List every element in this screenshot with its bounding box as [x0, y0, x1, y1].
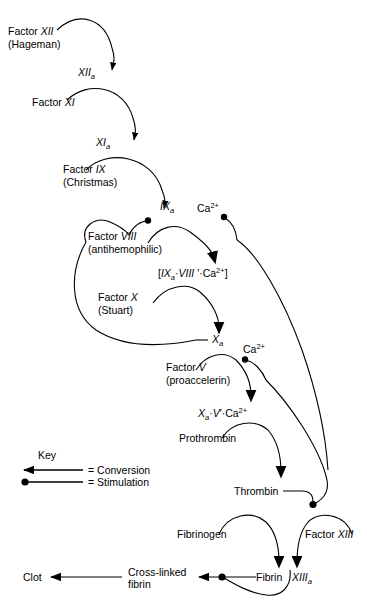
node-prothrombin: Prothrombin	[179, 432, 236, 444]
xiia-base: XII	[77, 66, 91, 78]
node-factor-xi: Factor XI	[32, 96, 75, 108]
node-crosslinked-fibrin-line2: fibrin	[128, 578, 151, 590]
complex2-ca-base: Ca	[225, 407, 239, 419]
factor-xi-numeral: XI	[64, 96, 75, 108]
xia-sub: a	[106, 142, 110, 151]
xiiia-sub: a	[308, 577, 312, 586]
node-xiiia: XIIIa	[291, 571, 312, 586]
key-conversion-label: = Conversion	[88, 464, 150, 476]
node-factor-viii: Factor VIII	[88, 230, 137, 242]
node-factor-ix: Factor IX	[63, 163, 107, 175]
node-factor-xii: Factor XII	[8, 25, 54, 37]
calcium-1-sup: 2+	[210, 201, 219, 210]
node-factor-xii-alias: (Hageman)	[8, 38, 61, 50]
complex1-ca-base: Ca	[203, 267, 217, 279]
key-stimulation-label: = Stimulation	[88, 476, 149, 488]
factor-ix-numeral: IX	[96, 163, 107, 175]
node-thrombin: Thrombin	[234, 485, 279, 497]
factor-xii-word: Factor	[8, 25, 41, 37]
node-factor-xiii: Factor XIII	[305, 528, 354, 540]
node-complex-ixa-viii-ca: [IXa·VIII ′·Ca2+]	[158, 266, 228, 282]
xiia-sub: a	[91, 72, 95, 81]
node-clot: Clot	[23, 571, 42, 583]
factor-xiii-word: Factor	[305, 528, 338, 540]
coagulation-cascade-diagram: Factor XII (Hageman) XIIa Factor XI XIa …	[0, 0, 367, 608]
complex1-close: ]	[225, 267, 228, 279]
node-complex-xa-v-ca: Xa·V′·Ca2+	[197, 406, 248, 422]
node-factor-v-alias: (proaccelerin)	[166, 374, 230, 386]
xia-base: XI	[95, 136, 106, 148]
factor-v-numeral: V	[199, 361, 207, 373]
factor-v-word: Factor	[166, 361, 199, 373]
node-factor-x-alias: (Stuart)	[98, 304, 133, 316]
complex1-viii: VIII	[179, 267, 198, 279]
node-xiia: XIIa	[77, 66, 95, 81]
xa-sub: a	[219, 339, 223, 348]
factor-ix-word: Factor	[63, 163, 96, 175]
factor-viii-numeral: VIII	[121, 230, 137, 242]
node-factor-viii-alias: (antihemophilic)	[88, 243, 162, 255]
ixa-sub: a	[170, 206, 174, 215]
complex2-ca-sup: 2+	[239, 406, 248, 415]
factor-xi-word: Factor	[32, 96, 65, 108]
factor-xii-numeral: XII	[40, 25, 54, 37]
calcium-2-base: Ca	[243, 343, 257, 355]
key-title: Key	[38, 449, 57, 461]
factor-x-numeral: X	[130, 291, 139, 303]
node-calcium-2: Ca2+	[243, 342, 266, 355]
node-fibrinogen: Fibrinogen	[177, 528, 227, 540]
node-factor-x: Factor X	[98, 291, 139, 303]
node-ixa: IXa	[160, 200, 174, 215]
calcium-1-base: Ca	[197, 202, 211, 214]
calcium-2-sup: 2+	[256, 342, 265, 351]
node-calcium-1: Ca2+	[197, 201, 220, 214]
factor-viii-word: Factor	[88, 230, 121, 242]
node-xa: Xa	[211, 333, 223, 348]
node-factor-ix-alias: (Christmas)	[63, 176, 117, 188]
node-factor-v: Factor V	[166, 361, 207, 373]
node-xia: XIa	[95, 136, 110, 151]
cascade-labels-layer: Factor XII (Hageman) XIIa Factor XI XIa …	[0, 0, 367, 608]
factor-xiii-numeral: XIII	[337, 528, 354, 540]
factor-x-word: Factor	[98, 291, 131, 303]
xiiia-base: XIII	[291, 571, 308, 583]
node-crosslinked-fibrin-line1: Cross-linked	[128, 566, 187, 578]
node-fibrin: Fibrin	[256, 571, 282, 583]
